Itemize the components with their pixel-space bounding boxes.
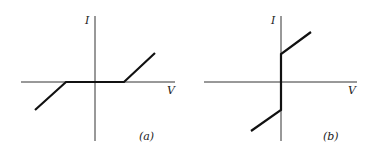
panel-b-x-label: V bbox=[348, 84, 357, 97]
panel-b-y-label: I bbox=[270, 14, 276, 27]
panel-a: I V (a) bbox=[21, 14, 176, 143]
panel-a-y-label: I bbox=[84, 14, 90, 27]
iv-characteristic-diagrams: I V (a) I V (b) bbox=[0, 0, 373, 147]
panel-a-x-label: V bbox=[167, 84, 176, 97]
panel-b: I V (b) bbox=[204, 14, 357, 143]
panel-b-caption: (b) bbox=[323, 130, 339, 143]
panel-a-caption: (a) bbox=[139, 130, 154, 143]
